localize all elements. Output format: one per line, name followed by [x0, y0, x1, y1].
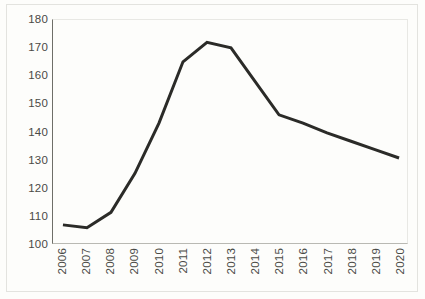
y-tick-label: 140 [4, 126, 48, 138]
x-tick-label-text: 2014 [249, 248, 261, 274]
y-tick-label: 180 [4, 13, 48, 25]
y-tick-label: 130 [4, 154, 48, 166]
x-tick-label-text: 2013 [225, 248, 237, 274]
x-tick-label: 2011 [176, 246, 190, 290]
x-tick-label-text: 2018 [346, 248, 358, 274]
x-tick-label: 2016 [296, 246, 310, 290]
x-tick-label-text: 2010 [153, 248, 165, 274]
x-tick-label-text: 2015 [273, 248, 285, 274]
line-series-svg [53, 20, 407, 243]
y-axis-tick-labels: 100110120130140150160170180 [0, 19, 48, 244]
x-tick-label: 2015 [272, 246, 286, 290]
x-tick-label: 2018 [345, 246, 359, 290]
x-axis-tick-labels: 2006200720082009201020112012201320142015… [52, 246, 408, 294]
y-tick-label: 120 [4, 182, 48, 194]
x-tick-label-text: 2019 [370, 248, 382, 274]
x-tick-label-text: 2020 [394, 248, 406, 274]
x-tick-label: 2010 [152, 246, 166, 290]
x-tick-label: 2006 [55, 246, 69, 290]
plot-area [52, 19, 408, 244]
data-line-series-1 [63, 42, 399, 227]
y-tick-label: 110 [4, 210, 48, 222]
x-tick-label-text: 2006 [56, 248, 68, 274]
x-tick-label-text: 2008 [104, 248, 116, 274]
x-tick-label: 2007 [79, 246, 93, 290]
chart-screenshot: 100110120130140150160170180 200620072008… [0, 0, 425, 299]
x-tick-label: 2017 [321, 246, 335, 290]
x-tick-label: 2020 [393, 246, 407, 290]
y-tick-label: 170 [4, 41, 48, 53]
y-tick-label: 100 [4, 238, 48, 250]
x-tick-label: 2009 [127, 246, 141, 290]
x-tick-label-text: 2011 [177, 248, 189, 274]
x-tick-label-text: 2012 [201, 248, 213, 274]
x-tick-label: 2013 [224, 246, 238, 290]
x-tick-label: 2008 [103, 246, 117, 290]
x-tick-label-text: 2016 [297, 248, 309, 274]
x-tick-label-text: 2009 [128, 248, 140, 274]
x-tick-label-text: 2007 [80, 248, 92, 274]
x-tick-label: 2019 [369, 246, 383, 290]
x-tick-label-text: 2017 [322, 248, 334, 274]
x-tick-label: 2014 [248, 246, 262, 290]
x-tick-label: 2012 [200, 246, 214, 290]
y-tick-label: 160 [4, 69, 48, 81]
y-tick-label: 150 [4, 97, 48, 109]
